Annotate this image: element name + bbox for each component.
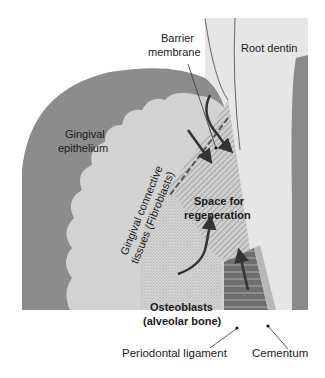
- gtr-diagram: Barrier membrane Root dentin Gingival ep…: [0, 0, 325, 378]
- label-barrier-2: membrane: [148, 46, 201, 58]
- label-osteoblasts-1: Osteoblasts: [150, 301, 213, 313]
- label-periodontal-ligament: Periodontal ligament: [122, 347, 228, 359]
- leader-cementum: [268, 326, 288, 349]
- label-barrier-1: Barrier: [161, 32, 194, 44]
- label-root-dentin: Root dentin: [241, 42, 297, 54]
- leader-ligament: [210, 329, 236, 348]
- label-space-1: Space for: [194, 195, 245, 207]
- label-epithelium-1: Gingival: [65, 128, 105, 140]
- label-epithelium-2: epithelium: [58, 142, 108, 154]
- label-cementum: Cementum: [252, 347, 308, 359]
- label-space-2: regeneration: [184, 209, 251, 221]
- label-osteoblasts-2: (alveolar bone): [143, 315, 222, 327]
